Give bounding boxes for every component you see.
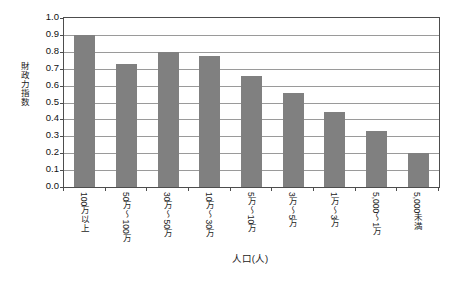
x-axis-tick-label: 100万以上 — [79, 192, 89, 233]
x-axis-tick-label: 3万～5万 — [287, 192, 297, 228]
bar-slot — [397, 18, 439, 187]
bar — [241, 76, 262, 187]
y-axis-tick-label: 0.1 — [30, 164, 59, 174]
x-axis-tick-mark — [188, 187, 189, 191]
x-axis-tick-mark — [271, 187, 272, 191]
y-axis-tick-label: 0.5 — [30, 97, 59, 107]
x-label-slot: 5,000～1万 — [355, 192, 397, 248]
bar — [74, 35, 95, 187]
x-axis-tick-label: 5万～10万 — [246, 192, 256, 233]
y-axis-tick-label: 0.6 — [30, 80, 59, 90]
y-axis-tick-label: 0.4 — [30, 114, 59, 124]
bar-series — [64, 18, 439, 187]
bar-slot — [314, 18, 356, 187]
x-axis-tick-label: 50万～100万 — [121, 192, 131, 243]
x-axis-tick-label: 10万～30万 — [204, 192, 214, 238]
x-axis-tick-label: 30万～50万 — [162, 192, 172, 238]
x-label-slot: 5万～10万 — [230, 192, 272, 248]
x-axis-tick-label: 5,000～1万 — [371, 192, 381, 236]
y-axis-tick-label: 0.3 — [30, 131, 59, 141]
x-axis-tick-marks — [63, 187, 438, 191]
bar-slot — [356, 18, 398, 187]
bar — [408, 153, 429, 187]
x-label-slot: 3万～5万 — [271, 192, 313, 248]
bar-slot — [64, 18, 106, 187]
x-axis-tick-mark — [313, 187, 314, 191]
x-label-slot: 5,000未満 — [396, 192, 438, 248]
bar-slot — [189, 18, 231, 187]
x-axis-title: 人口(人) — [0, 253, 452, 264]
y-axis-title: 財政力指数 — [14, 62, 28, 107]
bar-slot — [272, 18, 314, 187]
bar — [324, 112, 345, 187]
x-label-slot: 30万～50万 — [146, 192, 188, 248]
x-axis-tick-labels: 100万以上50万～100万30万～50万10万～30万5万～10万3万～5万1… — [63, 192, 438, 248]
y-axis-tick-label: 0.9 — [30, 29, 59, 39]
y-axis-tick-label: 1.0 — [30, 12, 59, 22]
plot-area — [63, 17, 440, 188]
x-label-slot: 50万～100万 — [105, 192, 147, 248]
bar — [283, 93, 304, 187]
x-axis-tick-mark — [105, 187, 106, 191]
x-axis-tick-mark — [63, 187, 64, 191]
y-axis-tick-label: 0.2 — [30, 147, 59, 157]
x-axis-tick-label: 1万～3万 — [329, 192, 339, 228]
y-axis-tick-label: 0.0 — [30, 181, 59, 191]
x-label-slot: 100万以上 — [63, 192, 105, 248]
bar-slot — [147, 18, 189, 187]
bar-slot — [231, 18, 273, 187]
x-axis-tick-mark — [396, 187, 397, 191]
y-axis-tick-label: 0.7 — [30, 63, 59, 73]
bar — [199, 56, 220, 187]
bar — [116, 64, 137, 187]
y-axis-tick-labels: 1.00.90.80.70.60.50.40.30.20.10.0 — [30, 17, 59, 186]
x-axis-tick-mark — [438, 187, 439, 191]
x-label-slot: 10万～30万 — [188, 192, 230, 248]
x-axis-tick-mark — [230, 187, 231, 191]
bar — [158, 52, 179, 187]
bar-slot — [106, 18, 148, 187]
y-axis-tick-label: 0.8 — [30, 46, 59, 56]
x-axis-tick-label: 5,000未満 — [412, 192, 422, 231]
x-axis-tick-mark — [146, 187, 147, 191]
x-axis-tick-mark — [355, 187, 356, 191]
bar — [366, 131, 387, 187]
bar-chart: 財政力指数 1.00.90.80.70.60.50.40.30.20.10.0 … — [0, 0, 452, 282]
x-label-slot: 1万～3万 — [313, 192, 355, 248]
